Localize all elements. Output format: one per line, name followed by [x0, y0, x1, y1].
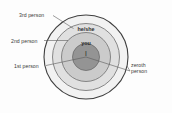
label-second-person: 2nd person: [11, 38, 37, 44]
label-zeroth-person: zeroth person: [131, 62, 147, 75]
label-zeroth-person-line2: person: [131, 68, 147, 74]
label-heshe: he/she: [60, 26, 112, 32]
label-you: you: [62, 40, 110, 46]
label-first-person: 1st person: [14, 63, 39, 69]
diagram-canvas: 3rd person 2nd person 1st person zeroth …: [0, 0, 172, 113]
label-i: I: [62, 50, 110, 57]
label-third-person: 3rd person: [19, 12, 44, 18]
